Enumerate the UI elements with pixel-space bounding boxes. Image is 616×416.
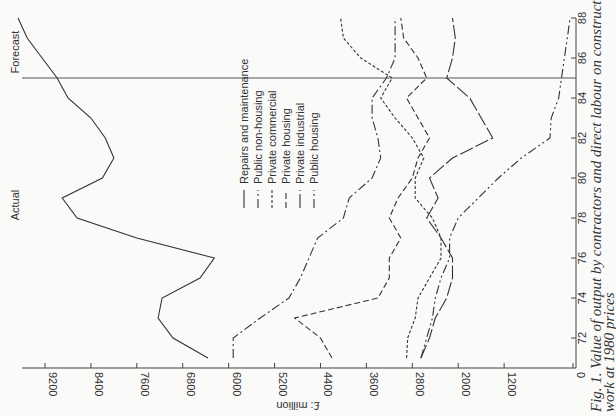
year-tick-label: 72 [576,332,588,344]
legend-label: Private commercial [266,90,278,184]
value-tick-label: 5200 [277,372,289,396]
series-lines [18,18,570,358]
series-line-public-non-housing [233,18,395,358]
legend-label: Private housing [280,108,292,184]
series-line-public-housing [421,18,570,358]
series-line-repairs-and-maintenance [18,18,214,358]
figure-caption-line-2: work at 1980 prices [601,292,616,412]
value-tick-label: 1200 [506,372,518,396]
series-line-private-housing [295,18,430,358]
year-tick-label: 74 [576,292,588,304]
year-tick-label: 78 [576,212,588,224]
year-tick-label: 86 [576,52,588,64]
series-line-private-industrial [421,18,493,358]
axes: 0120020002800360044005200600068007600840… [22,12,588,412]
year-tick-label: 88 [576,12,588,24]
legend: Repairs and maintenancePublic non-housin… [238,59,320,208]
annotations: ActualForecastFig. 1. Value of output by… [9,0,616,413]
actual-label: Actual [9,190,21,221]
year-tick-label: 82 [576,132,588,144]
legend-label: Repairs and maintenance [238,59,250,184]
legend-label: Private industrial [294,103,306,184]
value-axis-label: £: million [276,400,319,412]
value-tick-label: 6000 [231,372,243,396]
value-tick-label: 6800 [185,372,197,396]
value-tick-label: 2000 [460,372,472,396]
value-tick-label: 2800 [414,372,426,396]
legend-label: Public non-housing [252,90,264,184]
value-tick-label: 7600 [139,372,151,396]
value-tick-label: 9200 [47,372,59,396]
forecast-label: Forecast [9,31,21,74]
year-tick-label: 84 [576,92,588,104]
series-line-private-commercial [341,18,441,358]
value-tick-label: 8400 [93,372,105,396]
value-tick-label: 3600 [368,372,380,396]
value-tick-label: 0 [575,372,587,378]
value-tick-label: 4400 [322,372,334,396]
year-tick-label: 80 [576,172,588,184]
legend-label: Public housing [308,112,320,184]
year-tick-label: 76 [576,252,588,264]
construction-output-chart: 0120020002800360044005200600068007600840… [0,0,616,416]
